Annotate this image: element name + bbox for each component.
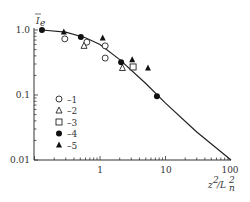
filled-circle-marker	[154, 93, 160, 99]
svg-text:e: e	[40, 18, 45, 28]
open-circle-marker	[102, 43, 108, 49]
legend-label: –5	[67, 141, 78, 151]
legend-label: –2	[67, 106, 77, 116]
y-axis-title: I e	[35, 14, 45, 28]
data-points	[39, 27, 160, 99]
legend-label: –1	[67, 95, 77, 105]
y-tick-0.1: 0.1	[16, 90, 30, 100]
legend-label: –3	[67, 118, 78, 128]
x-tick-1: 1	[97, 165, 103, 175]
filled-triangle-marker	[145, 65, 151, 71]
x-tick-10: 10	[160, 165, 172, 175]
axis-ticks	[34, 30, 228, 160]
filled-triangle-marker	[129, 56, 135, 62]
legend-filled-circle-icon	[56, 131, 62, 137]
legend-open-square-icon	[56, 119, 62, 125]
x-axis-title: z 2 /L n 2	[207, 175, 235, 193]
legend-label: –4	[67, 129, 78, 139]
legend-open-triangle-icon	[56, 107, 62, 113]
legend-filled-triangle-icon	[56, 142, 62, 148]
svg-text:2: 2	[228, 175, 235, 185]
axes	[34, 28, 231, 160]
x-tick-100: 100	[221, 165, 238, 175]
y-tick-0.01: 0.01	[10, 155, 30, 165]
open-square-marker	[130, 64, 136, 70]
filled-circle-marker	[78, 34, 84, 40]
filled-triangle-marker	[100, 35, 106, 41]
y-tick-1: 1.0	[16, 25, 31, 35]
legend-open-circle-icon	[56, 96, 62, 102]
svg-text:/L: /L	[216, 180, 226, 190]
chart: 1.0 0.1 0.01 1 10 100 I e z 2 /L n 2 –1–…	[0, 0, 250, 202]
open-triangle-marker	[119, 65, 125, 71]
filled-circle-marker	[118, 59, 124, 65]
filled-circle-marker	[39, 27, 45, 33]
open-circle-marker	[102, 55, 108, 61]
open-circle-marker	[62, 36, 68, 42]
legend: –1–2–3–4–5	[56, 95, 78, 151]
